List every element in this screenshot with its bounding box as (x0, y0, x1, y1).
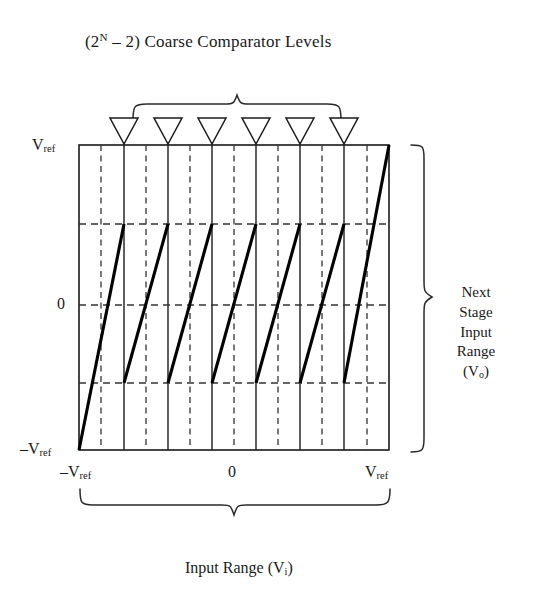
dashed-vertical-gridlines (101, 145, 367, 450)
ramp-segment-1 (79, 224, 124, 450)
comparator-triangle-icon-5 (286, 118, 314, 144)
diagram-vector-layer (0, 0, 537, 605)
comparator-triangle-icon-6 (330, 118, 358, 144)
comparator-level-markers (110, 118, 358, 144)
coarse-comparator-brace (133, 95, 341, 121)
comparator-triangle-icon-3 (198, 118, 226, 144)
comparator-triangle-icon-1 (110, 118, 138, 144)
figure-residue-transfer-characteristic: (2N – 2) Coarse Comparator Levels Vref 0… (0, 0, 537, 605)
comparator-triangle-icon-4 (242, 118, 270, 144)
next-stage-range-brace (411, 145, 432, 452)
input-range-brace (80, 489, 390, 515)
comparator-triangle-icon-2 (154, 118, 182, 144)
